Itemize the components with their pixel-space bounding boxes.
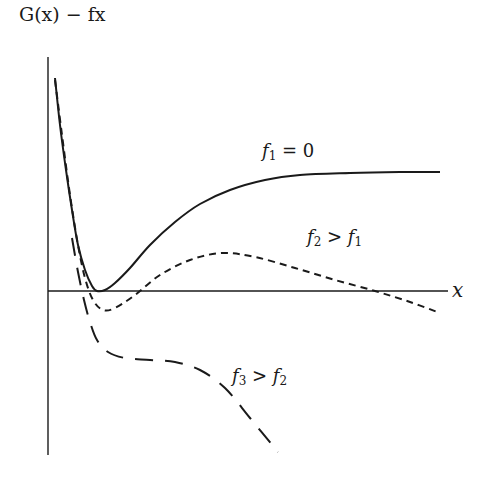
label-f2-rel: > [321,226,348,247]
label-f1-rel: = [276,140,303,161]
energy-landscape-chart [0,0,484,481]
label-f3-rhs: f [273,365,280,386]
label-f2: f2 > f1 [307,226,362,249]
label-f3-symbol: f [232,365,239,386]
label-f1-rhs: 0 [303,140,314,161]
curve-f1 [55,78,440,291]
y-axis-label: G(x) − fx [19,3,105,25]
label-f1: f1 = 0 [262,140,314,163]
label-f1-symbol: f [262,140,269,161]
x-axis-label: x [452,278,463,302]
curve-f3 [72,238,278,452]
label-f3: f3 > f2 [232,365,287,388]
label-f3-rhs-sub: 2 [280,374,288,388]
label-f2-rhs: f [348,226,355,247]
label-f2-rhs-sub: 1 [355,235,363,249]
curve-f2 [55,80,440,313]
label-f2-symbol: f [307,226,314,247]
label-f3-rel: > [246,365,273,386]
